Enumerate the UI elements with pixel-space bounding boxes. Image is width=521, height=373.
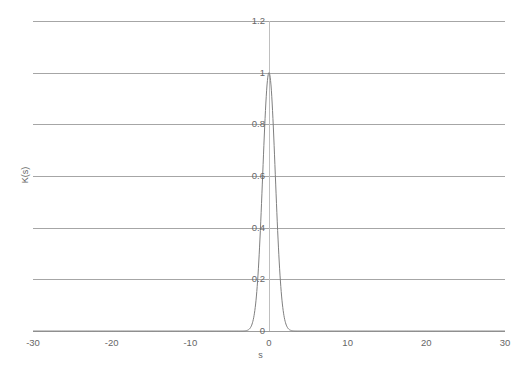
y-tick-label-1: 1 bbox=[225, 68, 265, 78]
y-tick-label-0: 0 bbox=[225, 326, 265, 336]
y-tick-label-1-2: 1.2 bbox=[225, 16, 265, 26]
y-tick-label-0-4: 0.4 bbox=[225, 223, 265, 233]
kernel-curve bbox=[33, 21, 505, 331]
x-tick-label-20: 20 bbox=[421, 338, 432, 348]
x-tick-label-neg20: -20 bbox=[105, 338, 119, 348]
kernel-curve-path bbox=[33, 73, 505, 331]
y-tick-label-0-6: 0.6 bbox=[225, 171, 265, 181]
chart-container: 00.20.40.60.811.2 -30-20-100102030 K(s) … bbox=[0, 0, 521, 373]
x-axis-title: s bbox=[0, 350, 521, 360]
y-axis-title: K(s) bbox=[20, 160, 30, 190]
x-tick-label-neg10: -10 bbox=[183, 338, 197, 348]
x-tick-label-neg30: -30 bbox=[26, 338, 40, 348]
x-tick-label-10: 10 bbox=[342, 338, 353, 348]
x-tick-label-30: 30 bbox=[500, 338, 511, 348]
x-tick-label-0: 0 bbox=[266, 338, 271, 348]
plot-area bbox=[33, 21, 505, 331]
y-tick-label-0-8: 0.8 bbox=[225, 119, 265, 129]
y-tick-label-0-2: 0.2 bbox=[225, 274, 265, 284]
